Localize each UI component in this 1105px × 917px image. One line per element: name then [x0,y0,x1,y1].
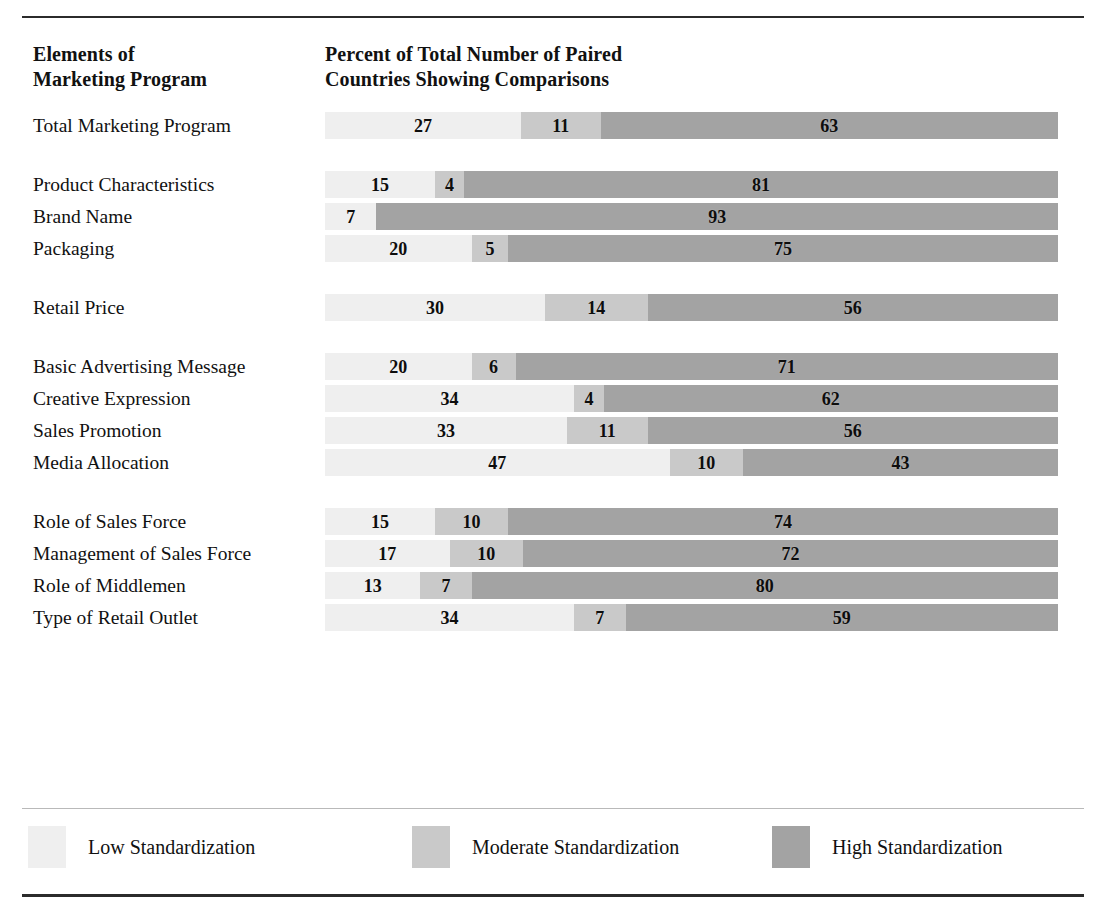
row-label: Media Allocation [33,449,318,476]
chart-row: Retail Price301456 [0,294,1105,321]
bar-segment-value: 93 [708,208,726,226]
row-label: Retail Price [33,294,318,321]
bar-segment-value: 13 [364,577,382,595]
row-bar-track: 271163 [325,112,1058,139]
row-bar-track: 13780 [325,572,1058,599]
chart-legend: Low Standardization Moderate Standardiza… [0,826,1105,872]
bar-segment-value: 62 [822,390,840,408]
bar-segment-value: 10 [697,454,715,472]
bar-segment-value: 5 [485,240,494,258]
row-bar-track: 301456 [325,294,1058,321]
bar-segment-high: 72 [523,540,1058,567]
bar-segment-high: 74 [508,508,1058,535]
bar-segment-low: 47 [325,449,670,476]
legend-item-moderate: Moderate Standardization [412,826,679,868]
bar-segment-moderate: 5 [472,235,509,262]
bar-segment-low: 13 [325,572,420,599]
bar-segment-value: 56 [844,299,862,317]
column-header-percent: Percent of Total Number of Paired Countr… [325,42,795,92]
bar-segment-high: 59 [626,604,1058,631]
bar-segment-moderate: 7 [420,572,471,599]
row-label: Brand Name [33,203,318,230]
bar-segment-value: 71 [778,358,796,376]
bar-segment-value: 4 [445,176,454,194]
bar-segment-value: 63 [820,117,838,135]
bar-segment-low: 27 [325,112,521,139]
chart-row: Basic Advertising Message20671 [0,353,1105,380]
bar-segment-value: 30 [426,299,444,317]
row-bar-track: 15481 [325,171,1058,198]
bar-segment-value: 33 [437,422,455,440]
bar-segment-moderate: 7 [574,604,625,631]
bar-segment-low: 7 [325,203,376,230]
bar-segment-value: 17 [378,545,396,563]
bar-segment-low: 33 [325,417,567,444]
bar-segment-value: 43 [891,454,909,472]
bar-segment-high: 63 [601,112,1058,139]
row-label: Sales Promotion [33,417,318,444]
legend-item-high: High Standardization [772,826,1003,868]
chart-row: Role of Sales Force151074 [0,508,1105,535]
bar-segment-moderate: 10 [670,449,743,476]
bar-segment-low: 20 [325,353,472,380]
bar-segment-value: 72 [781,545,799,563]
legend-label-low: Low Standardization [88,836,255,859]
column-header-elements-line1: Elements of [33,42,313,67]
column-header-elements-line2: Marketing Program [33,67,313,92]
column-header-percent-line2: Countries Showing Comparisons [325,67,795,92]
chart-row: Media Allocation471043 [0,449,1105,476]
bar-segment-low: 15 [325,171,435,198]
row-bar-track: 793 [325,203,1058,230]
bar-segment-moderate: 10 [435,508,508,535]
bar-segment-high: 56 [648,294,1058,321]
bottom-rule [22,894,1084,897]
bar-segment-value: 14 [587,299,605,317]
legend-divider-rule [22,808,1084,809]
row-bar-track: 331156 [325,417,1058,444]
bar-segment-moderate: 11 [521,112,601,139]
row-bar-track: 471043 [325,449,1058,476]
bar-segment-value: 34 [441,609,459,627]
figure-container: Elements of Marketing Program Percent of… [0,0,1105,917]
row-label: Basic Advertising Message [33,353,318,380]
bar-segment-high: 81 [464,171,1058,198]
bar-segment-moderate: 11 [567,417,648,444]
bar-segment-value: 7 [441,577,450,595]
row-label: Management of Sales Force [33,540,318,567]
bar-segment-low: 17 [325,540,450,567]
bar-segment-high: 80 [472,572,1058,599]
legend-label-high: High Standardization [832,836,1003,859]
legend-label-moderate: Moderate Standardization [472,836,679,859]
bar-segment-value: 11 [599,422,616,440]
bar-segment-value: 47 [488,454,506,472]
chart-row: Creative Expression34462 [0,385,1105,412]
bar-segment-moderate: 4 [574,385,603,412]
row-bar-track: 20671 [325,353,1058,380]
chart-row: Packaging20575 [0,235,1105,262]
bar-segment-value: 7 [595,609,604,627]
bar-segment-low: 15 [325,508,435,535]
top-rule [22,16,1084,18]
bar-segment-value: 81 [752,176,770,194]
bar-segment-value: 15 [371,513,389,531]
chart-row: Type of Retail Outlet34759 [0,604,1105,631]
bar-segment-moderate: 6 [472,353,516,380]
row-bar-track: 20575 [325,235,1058,262]
legend-swatch-moderate-icon [412,826,450,868]
legend-swatch-low-icon [28,826,66,868]
row-bar-track: 34759 [325,604,1058,631]
row-label: Packaging [33,235,318,262]
chart-row: Product Characteristics15481 [0,171,1105,198]
bar-segment-moderate: 4 [435,171,464,198]
row-bar-track: 151074 [325,508,1058,535]
bar-segment-high: 93 [376,203,1058,230]
chart-row: Role of Middlemen13780 [0,572,1105,599]
bar-segment-low: 30 [325,294,545,321]
chart-rows: Total Marketing Program271163Product Cha… [0,112,1105,636]
bar-segment-value: 80 [756,577,774,595]
bar-segment-high: 75 [508,235,1058,262]
bar-segment-moderate: 10 [450,540,523,567]
chart-row: Total Marketing Program271163 [0,112,1105,139]
column-header-elements: Elements of Marketing Program [33,42,313,92]
row-label: Creative Expression [33,385,318,412]
